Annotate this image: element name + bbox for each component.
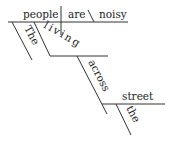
word-predicate-adjective: noisy [99,8,127,20]
word-object: street [122,90,154,102]
word-subject: people [23,8,59,20]
predicate-divider [88,10,94,22]
word-verb: are [68,8,86,20]
sentence-diagram: people are noisy The living across stree… [0,0,175,145]
word-article-object: the [124,103,143,124]
word-participle: living [42,18,84,49]
word-article-subject: The [22,23,42,46]
word-preposition: across [86,57,113,93]
